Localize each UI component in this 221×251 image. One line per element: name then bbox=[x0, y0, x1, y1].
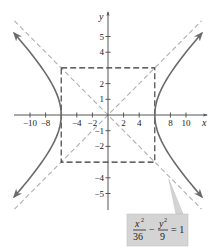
eq-equals: = 1 bbox=[171, 224, 184, 235]
equation-callout: x 2 36 − y 2 9 = 1 bbox=[127, 179, 188, 246]
eq-denominator-2: 9 bbox=[160, 231, 165, 242]
eq-minus: − bbox=[149, 224, 155, 235]
y-axis-label: y bbox=[98, 11, 104, 22]
callout-pointer bbox=[169, 179, 183, 214]
y-tick-label: 4 bbox=[100, 47, 105, 57]
x-axis-label: x bbox=[201, 117, 207, 128]
x-tick-label: 4 bbox=[137, 118, 142, 128]
eq-numerator-x: x bbox=[134, 218, 140, 229]
eq-denominator-1: 36 bbox=[133, 231, 143, 242]
x-tick-label: −10 bbox=[23, 118, 38, 128]
y-tick-label: 5 bbox=[100, 32, 105, 42]
y-tick-label: 2 bbox=[100, 79, 105, 89]
x-tick-label: 10 bbox=[182, 118, 192, 128]
x-tick-label: −4 bbox=[72, 118, 82, 128]
y-tick-label: −4 bbox=[94, 173, 104, 183]
eq-exponent-2: 2 bbox=[164, 217, 167, 223]
eq-exponent-1: 2 bbox=[141, 217, 144, 223]
y-tick-label: −1 bbox=[94, 126, 104, 136]
y-tick-label: 1 bbox=[100, 94, 105, 104]
x-tick-label: 2 bbox=[121, 118, 126, 128]
x-tick-label: 8 bbox=[168, 118, 173, 128]
hyperbola-chart: x y −10−8−4−2248105421−1−2−4−5 x 2 36 − … bbox=[0, 0, 221, 251]
x-tick-label: −8 bbox=[41, 118, 51, 128]
y-tick-label: −2 bbox=[94, 141, 104, 151]
y-tick-label: −5 bbox=[94, 189, 104, 199]
